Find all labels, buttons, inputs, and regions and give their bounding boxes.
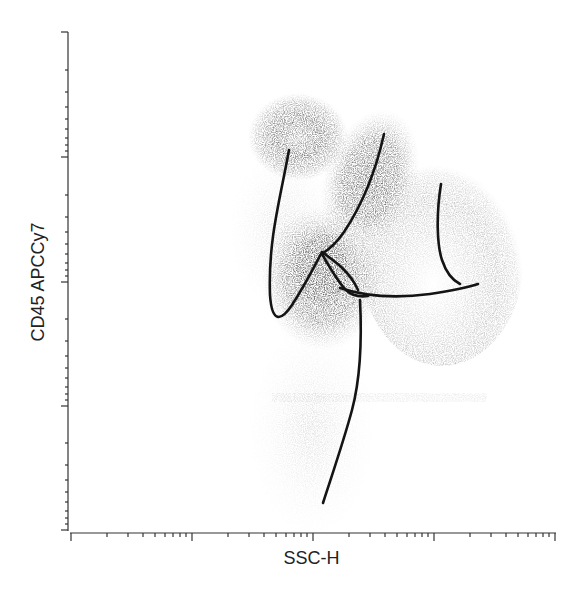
population-central-core: [296, 234, 348, 302]
x-axis-label: SSC-H: [0, 548, 583, 569]
artefact-band: [272, 393, 487, 402]
flow-cytometry-plot: [0, 0, 583, 600]
population-upper-left: [248, 93, 348, 181]
y-axis-label: CD45 APCCy7: [28, 222, 49, 341]
y-axis: [61, 32, 68, 531]
x-axis: [70, 533, 556, 541]
population-lower-tail: [250, 325, 374, 535]
